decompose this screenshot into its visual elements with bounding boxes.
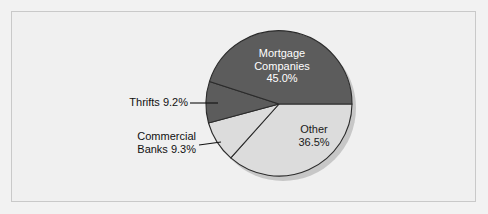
pie-chart [0, 0, 488, 214]
callout-label-line-2: Banks 9.3% [84, 143, 196, 156]
slice-label-line-1: Other [279, 123, 349, 136]
callout-label-line-1: Commercial [84, 130, 196, 143]
slice-label-mortgage-companies: Mortgage Companies 45.0% [236, 47, 328, 85]
slice-label-line-2: 36.5% [279, 136, 349, 149]
slice-label-line-1: Mortgage [236, 47, 328, 60]
slice-label-line-2: Companies [236, 60, 328, 73]
figure-canvas: Mortgage Companies 45.0% Other 36.5% Thr… [0, 0, 488, 214]
slice-label-other: Other 36.5% [279, 123, 349, 148]
callout-label-line-1: Thrifts 9.2% [92, 96, 188, 109]
callout-label-thrifts: Thrifts 9.2% [92, 96, 188, 109]
callout-label-commercial-banks: Commercial Banks 9.3% [84, 130, 196, 156]
slice-label-line-3: 45.0% [236, 72, 328, 85]
